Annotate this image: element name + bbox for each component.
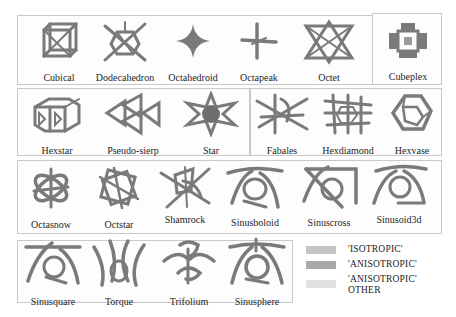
sinuscross-lattice-icon	[298, 163, 360, 211]
lattice-label: Hexvase	[377, 145, 447, 156]
lattice-cell-octapeak: Octapeak	[224, 16, 294, 84]
isotropic-swatch-icon	[306, 246, 336, 254]
octet-lattice-icon	[300, 18, 358, 66]
panel-d: Fabales Hexdiamond Hexvase	[250, 88, 442, 156]
lattice-cell-sinusphere: Sinusphere	[222, 235, 292, 303]
lattice-cell-sinusboloid: Sinusboloid	[220, 161, 290, 229]
lattice-cell-octet: Octet	[294, 16, 364, 84]
lattice-label: Hexstar	[22, 145, 92, 156]
lattice-label: Dodecahedron	[90, 72, 160, 83]
shamrock-lattice-icon	[157, 163, 213, 211]
lattice-cell-star: Star	[176, 89, 246, 157]
sinusphere-lattice-icon	[226, 237, 288, 289]
lattice-cell-sinuscross: Sinuscross	[294, 161, 364, 229]
hexstar-lattice-icon	[29, 91, 85, 137]
anisotropic-other-swatch-icon	[306, 280, 336, 288]
lattice-cell-hexvase: Hexvase	[377, 89, 447, 157]
lattice-label: Octet	[294, 72, 364, 83]
sinusoid3d-lattice-icon	[368, 163, 430, 211]
legend-item-anisotropic-other: 'ANISOTROPIC' OTHER	[306, 274, 456, 300]
lattice-label: Octasnow	[16, 219, 86, 230]
octahedroid-lattice-icon	[170, 18, 216, 64]
hexvase-lattice-icon	[389, 91, 435, 137]
lattice-cell-shamrock: Shamrock	[150, 161, 220, 229]
lattice-label: Hexdiamond	[313, 145, 383, 156]
lattice-cell-fabales: Fabales	[247, 89, 317, 157]
lattice-label: Trifolium	[154, 296, 224, 307]
lattice-label: Cubical	[24, 72, 94, 83]
anisotropic-swatch-icon	[306, 261, 336, 269]
lattice-cell-sinusoid3d: Sinusoid3d	[364, 161, 434, 229]
octstar-lattice-icon	[94, 165, 144, 211]
lattice-label: Sinusboloid	[220, 217, 290, 228]
lattice-cell-cubical: Cubical	[24, 16, 94, 84]
lattice-label: Octstar	[84, 219, 154, 230]
panel-e: Octasnow Octstar Shamrock Sinusboloid	[17, 160, 442, 234]
panel-b: Cubeplex	[372, 13, 442, 85]
lattice-label: Octapeak	[224, 72, 294, 83]
lattice-cell-octasnow: Octasnow	[16, 163, 86, 231]
fabales-lattice-icon	[253, 91, 311, 137]
trifolium-lattice-icon	[158, 237, 220, 289]
legend-label: 'ISOTROPIC'	[348, 244, 403, 255]
lattice-label: Star	[176, 145, 246, 156]
torque-lattice-icon	[88, 237, 150, 289]
lattice-label: Sinuscross	[294, 217, 364, 228]
octasnow-lattice-icon	[28, 165, 74, 211]
cubeplex-lattice-icon	[385, 17, 431, 63]
lattice-label: Sinusphere	[222, 296, 292, 307]
lattice-cell-dodecahedron: Dodecahedron	[90, 16, 160, 84]
legend-item-isotropic: 'ISOTROPIC'	[306, 244, 456, 259]
panel-c: Hexstar Pseudo-sierp Star	[17, 88, 250, 156]
hexdiamond-lattice-icon	[319, 91, 377, 137]
lattice-cell-hexdiamond: Hexdiamond	[313, 89, 383, 157]
lattice-cell-torque: Torque	[84, 235, 154, 303]
lattice-label: Octahedroid	[158, 72, 228, 83]
lattice-cell-hexstar: Hexstar	[22, 89, 92, 157]
lattice-label: Fabales	[247, 145, 317, 156]
dodecahedron-lattice-icon	[99, 18, 151, 66]
octapeak-lattice-icon	[236, 18, 282, 64]
pseudo-sierp-lattice-icon	[103, 91, 163, 137]
lattice-cell-octahedroid: Octahedroid	[158, 16, 228, 84]
sinusquare-lattice-icon	[22, 237, 84, 289]
legend-label: 'ANISOTROPIC' OTHER	[348, 274, 417, 296]
lattice-label: Sinusoid3d	[364, 214, 434, 225]
legend-label: 'ANISOTROPIC'	[348, 259, 417, 270]
lattice-label: Pseudo-sierp	[98, 145, 168, 156]
cubical-lattice-icon	[36, 18, 82, 64]
lattice-cell-trifolium: Trifolium	[154, 235, 224, 303]
lattice-cell-sinusquare: Sinusquare	[18, 235, 88, 303]
panel-a: Cubical Dodecahedron Octahedroid Octapea…	[17, 15, 374, 85]
lattice-cell-octstar: Octstar	[84, 163, 154, 231]
sinusboloid-lattice-icon	[224, 163, 286, 211]
panel-f: Sinusquare Torque Trifolium	[17, 240, 293, 303]
legend-item-anisotropic: 'ANISOTROPIC'	[306, 259, 456, 274]
legend: 'ISOTROPIC' 'ANISOTROPIC' 'ANISOTROPIC' …	[306, 244, 456, 300]
lattice-label: Shamrock	[150, 214, 220, 225]
lattice-label: Torque	[84, 296, 154, 307]
lattice-cell-cubeplex: Cubeplex	[373, 15, 443, 83]
lattice-cell-pseudo-sierp: Pseudo-sierp	[98, 89, 168, 157]
star-lattice-icon	[183, 91, 239, 137]
lattice-label: Cubeplex	[373, 71, 443, 82]
lattice-label: Sinusquare	[18, 296, 88, 307]
